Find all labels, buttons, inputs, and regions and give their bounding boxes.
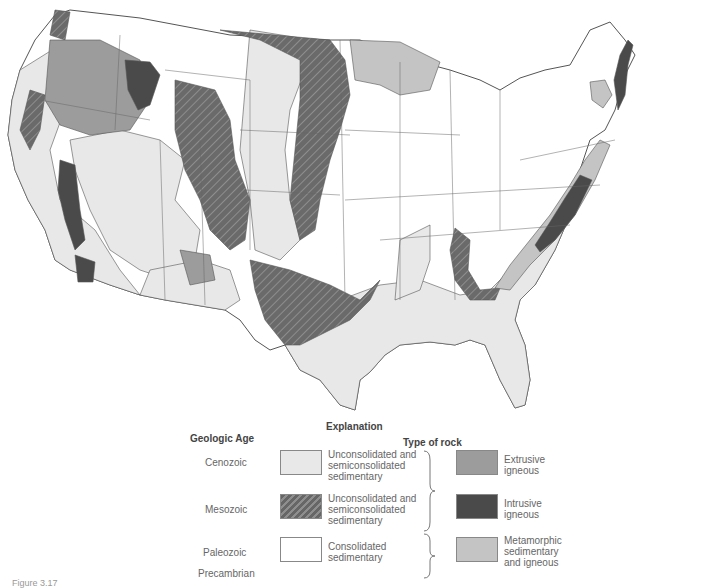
label-cenozoic-sedimentary: Unconsolidated and semiconsolidated sedi… [328, 449, 416, 482]
age-paleozoic: Paleozoic [203, 547, 246, 558]
swatch-extrusive-igneous [456, 450, 498, 475]
label-mesozoic-sedimentary: Unconsolidated and semiconsolidated sedi… [328, 493, 416, 526]
swatch-cenozoic-sedimentary [280, 450, 322, 475]
age-mesozoic: Mesozoic [205, 504, 247, 515]
legend-title: Explanation [326, 421, 383, 432]
geologic-map [0, 0, 703, 420]
label-consolidated-sedimentary: Consolidated sedimentary [328, 541, 386, 563]
brace-metamorphic [422, 533, 436, 579]
swatch-consolidated-sedimentary [280, 537, 322, 562]
brace-igneous [422, 450, 436, 532]
label-extrusive-igneous: Extrusive igneous [504, 454, 545, 476]
geologic-age-header: Geologic Age [190, 433, 254, 444]
swatch-mesozoic-sedimentary [280, 494, 322, 519]
type-of-rock-header: Type of rock [403, 437, 462, 448]
swatch-intrusive-igneous [456, 494, 498, 519]
figure-caption: Figure 3.17 [12, 578, 58, 588]
age-precambrian: Precambrian [198, 568, 255, 579]
swatch-metamorphic [456, 537, 498, 562]
label-metamorphic: Metamorphic sedimentary and igneous [504, 535, 562, 568]
label-intrusive-igneous: Intrusive igneous [504, 498, 542, 520]
age-cenozoic: Cenozoic [205, 457, 247, 468]
